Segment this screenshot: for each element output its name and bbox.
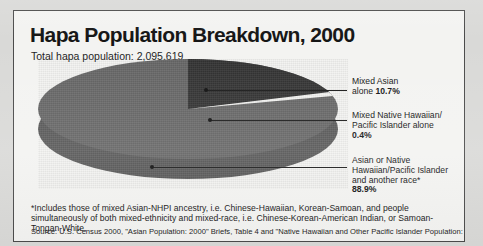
leader-dot-mixed-asian-alone — [204, 88, 208, 92]
callout-value: 88.9% — [352, 184, 376, 194]
callout-mixed-nhpi-alone: Mixed Native Hawaiian/ Pacific Islander … — [352, 111, 457, 140]
source-text: Source: U.S. Census 2000, "Asian Populat… — [31, 227, 455, 236]
scanned-page: Hapa Population Breakdown, 2000 Total ha… — [0, 0, 483, 246]
callout-value: 10.7% — [375, 86, 399, 96]
leader-dot-asian-or-nhpi-another-race — [150, 165, 154, 169]
callout-asian-or-nhpi-another-race: Asian or Native Hawaiian/Pacific Islande… — [352, 156, 457, 195]
pie-top-face — [38, 59, 338, 159]
leader-line-asian-or-nhpi-another-race — [153, 167, 347, 168]
leader-line-mixed-nhpi-alone — [211, 120, 347, 121]
chart-panel: Hapa Population Breakdown, 2000 Total ha… — [13, 10, 465, 242]
callout-value-line: 88.9% — [352, 185, 457, 195]
page-title: Hapa Population Breakdown, 2000 — [30, 23, 355, 47]
callout-value-line: 0.4% — [352, 131, 457, 141]
callout-line-2: alone 10.7% — [352, 87, 452, 97]
leader-dot-mixed-nhpi-alone — [208, 118, 212, 122]
callout-prefix: alone — [352, 86, 375, 96]
leader-line-mixed-asian-alone — [207, 90, 347, 91]
callout-mixed-asian-alone: Mixed Asian alone 10.7% — [352, 77, 452, 97]
pie-slice-mixed-asian-alone — [38, 59, 338, 159]
pie-chart — [38, 59, 348, 189]
callout-value: 0.4% — [352, 130, 372, 140]
